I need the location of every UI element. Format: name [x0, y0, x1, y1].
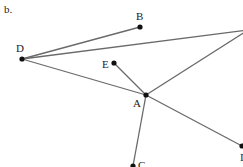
segment-A-F [146, 95, 242, 146]
point-D [19, 56, 24, 61]
segment-A-TR [146, 30, 243, 95]
point-C [130, 163, 135, 167]
point-label-C: C [138, 160, 145, 167]
points [19, 24, 243, 167]
segment-D-B [22, 27, 140, 59]
figure-label: b. [4, 4, 12, 15]
point-label-F: I [240, 152, 243, 163]
point-A [143, 92, 148, 97]
point-label-E: E [102, 59, 109, 70]
point-E [111, 60, 116, 65]
point-label-A: A [133, 98, 141, 109]
point-label-B: B [136, 11, 143, 22]
point-B [137, 24, 142, 29]
diagram-canvas [0, 0, 243, 167]
point-label-D: D [16, 43, 24, 54]
